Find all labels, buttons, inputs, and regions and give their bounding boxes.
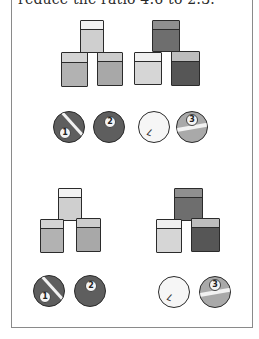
cube — [171, 51, 200, 86]
cube-top-face — [98, 53, 122, 62]
caption-text: reduce the ratio 4:6 to 2:3. — [18, 0, 215, 7]
ball-number-spot: 3 — [209, 279, 221, 291]
cube — [80, 20, 104, 53]
cube — [152, 20, 180, 52]
ball-1-top: 1 — [53, 111, 85, 143]
ball-2-bottom: 2 — [74, 275, 106, 307]
cube — [76, 218, 101, 252]
ball-number-spot: 1 — [59, 127, 71, 139]
ball-number-spot: 1 — [39, 291, 51, 303]
cube-top-face — [62, 53, 87, 63]
ball-7-top: 7 — [138, 111, 170, 143]
ball-3-top: 3 — [176, 111, 208, 143]
cube-top-face — [81, 21, 103, 30]
cube-top-face — [135, 53, 161, 62]
ball-number-spot: 2 — [85, 280, 97, 292]
cube — [156, 219, 182, 253]
cube-top-face — [59, 189, 81, 198]
cube — [40, 219, 64, 253]
cube — [191, 218, 220, 252]
cube-top-face — [77, 219, 100, 228]
cube — [134, 52, 162, 85]
cube-top-face — [175, 189, 202, 198]
ball-number-spot: 3 — [186, 114, 198, 126]
cube-top-face — [157, 220, 181, 229]
ball-7-bottom: 7 — [158, 276, 190, 308]
ball-2-top: 2 — [93, 111, 125, 143]
ball-number: 7 — [145, 126, 154, 137]
cube — [97, 52, 123, 86]
ball-3-bottom: 3 — [199, 276, 231, 308]
cube — [58, 188, 82, 221]
ball-number-spot: 2 — [104, 116, 116, 128]
cube-top-face — [192, 219, 219, 228]
cube — [61, 52, 88, 87]
cube-top-face — [153, 21, 179, 30]
ball-1-bottom: 1 — [33, 275, 65, 307]
cube — [174, 188, 203, 221]
ball-number: 7 — [165, 291, 174, 302]
cube-top-face — [172, 52, 199, 62]
cube-top-face — [41, 220, 63, 229]
